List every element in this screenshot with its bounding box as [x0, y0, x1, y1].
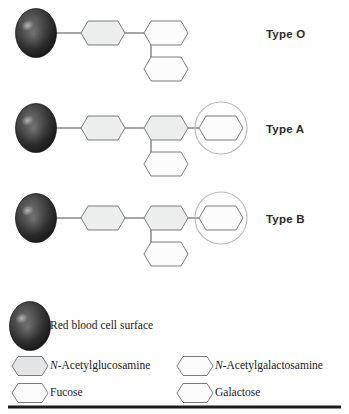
sugar-hexagon-type-o-1: [144, 21, 188, 45]
red-blood-cell-icon-type-o: [16, 9, 57, 58]
sugar-hexagon-type-b-1: [144, 206, 188, 230]
sugar-hexagon-type-b-2: [144, 242, 188, 266]
legend-prefix-galnac: N: [215, 359, 223, 371]
row-label-type-a: Type A: [266, 123, 304, 135]
legend-label-red-blood-cell-surface: Red blood cell surface: [50, 320, 153, 332]
sugar-hexagon-type-a-2: [144, 152, 188, 176]
sugar-hexagon-type-b-3: [199, 206, 243, 230]
red-blood-cell-icon-type-b: [16, 194, 57, 243]
legend-hexagon-icon-glcnac: [12, 357, 48, 376]
sugar-hexagon-type-o-2: [144, 57, 188, 81]
legend-icons: [10, 302, 214, 403]
row-label-type-b: Type B: [266, 213, 305, 225]
legend-label-galactose: Galactose: [215, 387, 260, 399]
red-blood-cell-icon-type-a: [16, 104, 57, 153]
sugar-hexagon-type-a-0: [81, 116, 125, 140]
legend-prefix-glcnac: N: [50, 359, 58, 371]
legend-label-fucose: Fucose: [50, 387, 83, 399]
sugar-hexagon-type-a-3: [199, 116, 243, 140]
sugar-hexagon-type-a-1: [144, 116, 188, 140]
sugar-hexagons: [81, 21, 243, 266]
legend-hexagon-icon-galactose: [177, 384, 213, 403]
row-label-type-o: Type O: [266, 28, 305, 40]
legend-hexagon-icon-fucose: [12, 384, 48, 403]
sugar-hexagon-type-b-0: [81, 206, 125, 230]
antigen-diagram-svg: [0, 0, 349, 414]
legend-label-glcnac: N-Acetylglucosamine: [50, 360, 150, 372]
red-blood-cells: [16, 9, 57, 243]
legend-hexagon-icon-galnac: [177, 357, 213, 376]
blood-type-antigen-figure: Type OType AType B Red blood cell surfac…: [0, 0, 349, 414]
sugar-hexagon-type-o-0: [81, 21, 125, 45]
legend-label-galnac: N-Acetylgalactosamine: [215, 360, 323, 372]
red-blood-cell-icon: [10, 302, 51, 351]
